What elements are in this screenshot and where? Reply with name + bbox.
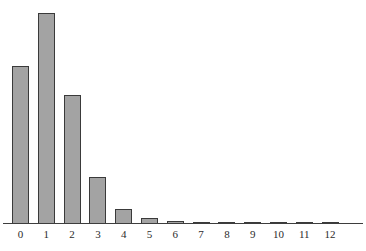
x-tick-label: 8 — [215, 226, 239, 242]
x-tick-label: 12 — [318, 226, 342, 242]
x-tick-label: 6 — [163, 226, 187, 242]
x-tick-label: 11 — [292, 226, 316, 242]
bar — [115, 209, 132, 224]
x-tick-label: 10 — [267, 226, 291, 242]
x-tick-label: 1 — [34, 226, 58, 242]
bar — [38, 13, 55, 224]
x-tick-label: 2 — [60, 226, 84, 242]
x-tick-label: 9 — [241, 226, 265, 242]
x-tick-label: 4 — [112, 226, 136, 242]
bar — [12, 66, 29, 224]
x-tick-label: 3 — [86, 226, 110, 242]
plot-area — [0, 0, 366, 224]
x-tick-label: 0 — [9, 226, 33, 242]
bar — [64, 95, 81, 224]
x-axis-tick-labels: 0123456789101112 — [0, 226, 366, 251]
bar-chart: 0123456789101112 — [0, 0, 366, 251]
x-tick-label: 7 — [189, 226, 213, 242]
bar — [89, 177, 106, 224]
x-tick-label: 5 — [138, 226, 162, 242]
x-axis-line — [3, 223, 363, 224]
